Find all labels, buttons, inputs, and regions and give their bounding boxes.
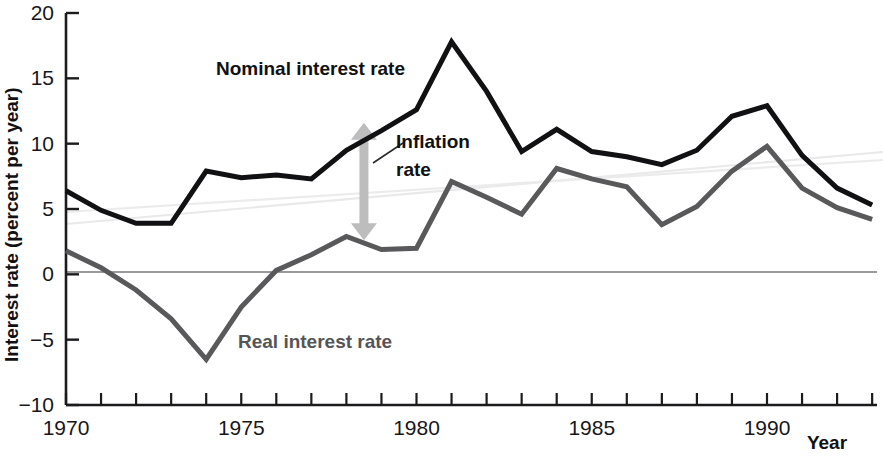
y-tick-label: 20 [31,1,54,24]
x-axis-title: Year [807,432,848,453]
chart-canvas: 20151050−5−10 19701975198019851990 Nomin… [0,0,883,458]
y-tick-label: 5 [42,197,54,220]
chart-background [0,0,883,458]
interest-rate-chart: 20151050−5−10 19701975198019851990 Nomin… [0,0,883,458]
x-tick-label: 1975 [218,416,265,439]
x-tick-label: 1980 [393,416,440,439]
inflation-label-line-2: rate [396,159,431,180]
x-tick-label: 1985 [568,416,615,439]
y-tick-label: −5 [30,328,54,351]
y-tick-label: 0 [42,262,54,285]
y-tick-label: −10 [18,393,54,416]
x-tick-label: 1970 [43,416,90,439]
nominal-series-label: Nominal interest rate [216,58,405,79]
y-tick-label: 10 [31,132,54,155]
x-tick-label: 1990 [744,416,791,439]
inflation-label-line-1: Inflation [396,131,470,152]
y-axis-title: Interest rate (percent per year) [1,87,22,362]
y-tick-label: 15 [31,66,54,89]
real-series-label: Real interest rate [238,331,392,352]
